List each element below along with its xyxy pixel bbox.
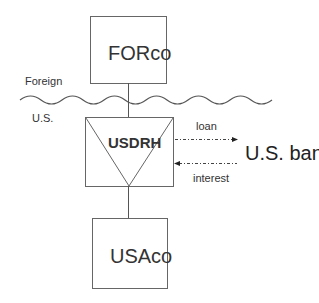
loan-arrowhead-icon bbox=[232, 137, 238, 142]
forco-label: FORco bbox=[108, 43, 171, 63]
border-wave bbox=[20, 96, 272, 104]
usdrh-triangle bbox=[86, 118, 173, 186]
usdrh-box bbox=[86, 118, 174, 187]
interest-arrowhead-icon bbox=[174, 161, 180, 166]
interest-label: interest bbox=[193, 173, 229, 184]
us-bank-label: U.S. bank bbox=[245, 143, 319, 163]
usdrh-label: USDRH bbox=[108, 135, 161, 150]
region-foreign-label: Foreign bbox=[25, 76, 62, 87]
usaco-label: USAco bbox=[110, 246, 172, 266]
loan-label: loan bbox=[196, 121, 217, 132]
region-us-label: U.S. bbox=[32, 113, 53, 124]
